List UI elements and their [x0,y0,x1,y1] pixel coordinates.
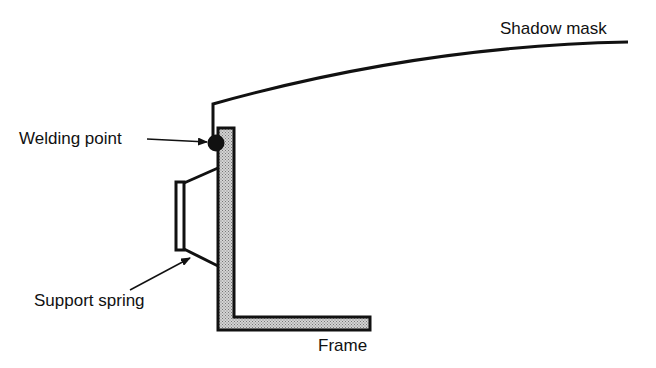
support-spring-leader-arrow [130,258,190,290]
support-spring-lower-arm [184,249,218,266]
support-spring-upper-arm [184,168,218,183]
support-spring-plate [176,182,184,250]
welding-point-leader-arrow [147,139,207,142]
support-spring-label: Support spring [34,292,145,309]
diagram-canvas [0,0,656,368]
frame-shape [218,128,370,330]
welding-point-dot [208,135,225,152]
shadow-mask-label: Shadow mask [500,20,607,37]
shadow-mask-line [213,42,628,140]
welding-point-label: Welding point [19,130,122,147]
frame-label: Frame [318,337,367,354]
